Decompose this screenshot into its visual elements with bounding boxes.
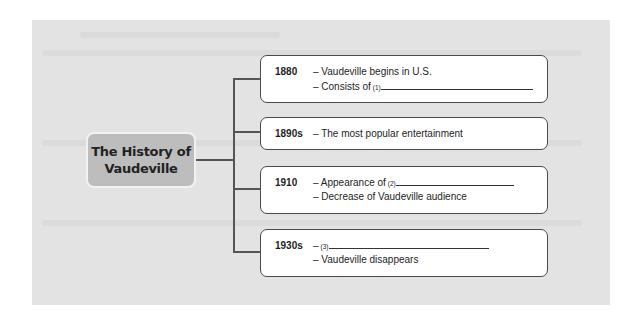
timeline-box-1890s: 1890s – The most popular entertainment <box>260 117 548 150</box>
entry-text: – Consists of <box>313 81 371 92</box>
central-topic-box: The History of Vaudeville <box>86 132 196 188</box>
year-label: 1880 <box>275 66 313 77</box>
answer-blank-1[interactable] <box>381 80 533 90</box>
blank-number: (1) <box>373 84 381 91</box>
central-topic-title: The History of Vaudeville <box>91 143 190 177</box>
entry-text: – Vaudeville disappears <box>313 254 418 265</box>
entry-row: – Vaudeville disappears <box>313 254 418 265</box>
connector-branch-1880 <box>233 78 260 80</box>
timeline-box-1880: 1880 – Vaudeville begins in U.S. – Consi… <box>260 55 548 103</box>
year-label: 1890s <box>275 128 313 139</box>
entry-text: – The most popular entertainment <box>313 128 463 139</box>
entry-text: – <box>313 240 319 251</box>
connector-main <box>196 159 234 161</box>
bleed-through-text <box>42 220 582 226</box>
connector-branch-1930s <box>233 251 260 253</box>
entry-text: – Vaudeville begins in U.S. <box>313 66 432 77</box>
year-label: 1910 <box>275 177 313 188</box>
timeline-box-1910: 1910 – Appearance of (2) – Decrease of V… <box>260 166 548 214</box>
connector-branch-1890s <box>233 131 260 133</box>
connector-branch-1910 <box>233 188 260 190</box>
bleed-through-text <box>80 32 280 38</box>
title-line-1: The History of <box>91 143 190 160</box>
answer-blank-3[interactable] <box>329 239 489 249</box>
title-line-2: Vaudeville <box>91 160 190 177</box>
entry-text: – Decrease of Vaudeville audience <box>313 191 467 202</box>
timeline-box-1930s: 1930s – (3) – Vaudeville disappears <box>260 229 548 277</box>
answer-blank-2[interactable] <box>396 176 514 186</box>
entry-row: – Decrease of Vaudeville audience <box>313 191 467 202</box>
blank-number: (2) <box>388 180 396 187</box>
entry-row: 1930s – (3) <box>275 239 489 251</box>
entry-row: 1880 – Vaudeville begins in U.S. <box>275 66 432 77</box>
year-label: 1930s <box>275 240 313 251</box>
entry-row: – Consists of (1) <box>313 80 533 92</box>
connector-trunk <box>233 78 235 252</box>
entry-text: – Appearance of <box>313 177 386 188</box>
blank-number: (3) <box>321 243 329 250</box>
entry-row: 1910 – Appearance of (2) <box>275 176 514 188</box>
entry-row: 1890s – The most popular entertainment <box>275 128 463 139</box>
